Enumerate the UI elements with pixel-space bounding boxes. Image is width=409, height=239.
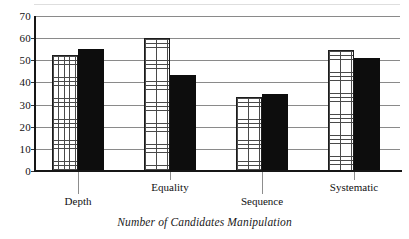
y-tick-label-50: 50 bbox=[3, 55, 31, 66]
y-tick-label-0: 0 bbox=[3, 166, 31, 177]
bar-depth-series1 bbox=[52, 55, 78, 171]
bar-sequence-series2 bbox=[262, 94, 288, 172]
bar-chart: 70 60 50 40 30 20 10 0 bbox=[0, 0, 409, 239]
x-axis-title: Number of Candidates Manipulation bbox=[0, 216, 409, 229]
x-axis-line bbox=[34, 170, 402, 172]
gridline-60 bbox=[34, 38, 400, 39]
category-leader-systematic bbox=[354, 172, 355, 180]
y-tick-label-60: 60 bbox=[3, 33, 31, 44]
y-tick-label-10: 10 bbox=[3, 144, 31, 155]
bar-sequence-series1 bbox=[236, 97, 262, 171]
category-leader-equality bbox=[170, 172, 171, 180]
y-tick-label-30: 30 bbox=[3, 100, 31, 111]
category-label-depth: Depth bbox=[65, 195, 92, 207]
y-axis-ticks: 70 60 50 40 30 20 10 0 bbox=[0, 16, 31, 171]
bar-equality-series2 bbox=[170, 75, 196, 171]
category-leader-depth bbox=[78, 172, 79, 194]
y-tick-label-40: 40 bbox=[3, 77, 31, 88]
category-label-systematic: Systematic bbox=[330, 181, 378, 193]
y-tick-label-70: 70 bbox=[3, 11, 31, 22]
top-edge-artifact bbox=[34, 4, 400, 5]
y-axis-line bbox=[34, 16, 36, 172]
gridline-70 bbox=[34, 16, 400, 17]
bar-depth-series2 bbox=[78, 49, 104, 171]
bar-equality-series1 bbox=[144, 38, 170, 171]
bar-systematic-series1 bbox=[328, 50, 354, 171]
bar-systematic-series2 bbox=[354, 58, 380, 171]
category-label-sequence: Sequence bbox=[241, 195, 283, 207]
plot-area bbox=[34, 16, 400, 171]
y-tick-label-20: 20 bbox=[3, 122, 31, 133]
category-label-equality: Equality bbox=[151, 181, 188, 193]
category-leader-sequence bbox=[262, 172, 263, 194]
